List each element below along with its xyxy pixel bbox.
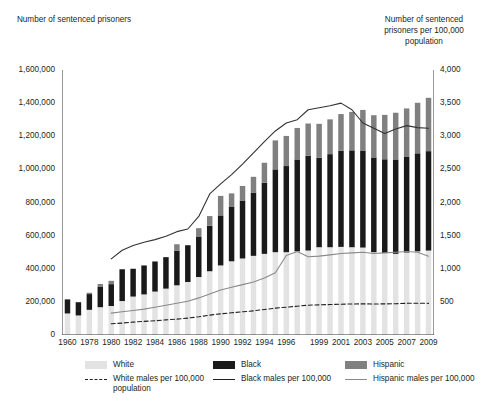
left-tick-label: 800,000 [0, 198, 55, 207]
bar-segment [415, 251, 420, 335]
bar-segment [174, 251, 179, 285]
legend-label-black-rate: Black males per 100,000 [241, 374, 331, 385]
bar-segment [426, 251, 431, 335]
legend-label-hispanic: Hispanic [373, 360, 404, 371]
bar-segment [316, 124, 321, 158]
bar-segment [163, 257, 168, 288]
bar-segment [327, 154, 332, 247]
bar-segment [152, 261, 157, 291]
legend-column-white: White White males per 100,000 population [85, 360, 223, 398]
bar-segment [163, 289, 168, 335]
bar-segment [284, 166, 289, 252]
left-tick-label: 400,000 [0, 264, 55, 273]
bar-segment [65, 313, 70, 335]
bar-segment [218, 196, 223, 216]
white-line-swatch-icon [85, 375, 107, 384]
x-tick-label: 1986 [168, 338, 186, 347]
bar-segment [207, 271, 212, 335]
bar-segment [207, 226, 212, 272]
legend-label-black: Black [241, 360, 261, 371]
bar-segment [349, 112, 354, 150]
x-tick-label: 1984 [146, 338, 164, 347]
legend-column-black: Black Black males per 100,000 [213, 360, 331, 387]
right-tick-label: 2,500 [440, 164, 461, 173]
bar-segment [338, 247, 343, 335]
x-tick-label: 1980 [102, 338, 120, 347]
bar-segment [196, 228, 201, 236]
left-tick-label: 0 [0, 330, 55, 339]
left-tick-label: 600,000 [0, 231, 55, 240]
bar-segment [415, 153, 420, 251]
x-tick-label: 2009 [419, 338, 437, 347]
bar-segment [382, 253, 387, 335]
bar-segment [251, 193, 256, 256]
bar-segment [76, 302, 81, 315]
bar-segment [87, 310, 92, 335]
left-tick-label: 1,400,000 [0, 98, 55, 107]
chart-figure: Number of sentenced prisoners Number of … [0, 0, 485, 415]
right-tick-label: 3,500 [440, 98, 461, 107]
bar-segment [284, 136, 289, 166]
bar-segment [130, 297, 135, 335]
right-tick-label: 1,000 [440, 264, 461, 273]
bar-segment [240, 201, 245, 259]
x-tick-label: 2005 [376, 338, 394, 347]
bar-segment [426, 151, 431, 250]
legend-item-white: White [85, 360, 223, 371]
bar-segment [273, 252, 278, 335]
legend-label-white: White [113, 360, 134, 371]
left-axis-title: Number of sentenced prisoners [8, 14, 140, 25]
x-tick-label: 1982 [124, 338, 142, 347]
bar-segment [327, 247, 332, 335]
bar-segment [262, 183, 267, 254]
bar-segment [185, 245, 190, 282]
bar-segment [338, 151, 343, 247]
bar-segment [305, 124, 310, 156]
bar-segment [295, 159, 300, 251]
legend-item-black-rate: Black males per 100,000 [213, 374, 331, 385]
left-tick-label: 1,000,000 [0, 164, 55, 173]
bar-segment [382, 159, 387, 253]
bar-segment [305, 156, 310, 251]
bar-segment [87, 293, 92, 294]
x-tick-label: 1992 [233, 338, 251, 347]
bar-segment [327, 119, 332, 154]
black-bar-swatch [213, 361, 235, 370]
bar-segment [371, 157, 376, 252]
x-tick-label: 1996 [277, 338, 295, 347]
series-line [111, 103, 428, 259]
bar-segment [316, 158, 321, 247]
right-axis-title: Number of sentenced prisoners per 100,00… [368, 14, 480, 47]
right-tick-label: 4,000 [440, 65, 461, 74]
bar-segment [273, 140, 278, 169]
bar-segment [109, 284, 114, 306]
bar-segment [174, 285, 179, 335]
white-bar-swatch [85, 361, 107, 370]
bar-segment [426, 98, 431, 151]
x-tick-label: 1978 [80, 338, 98, 347]
bar-segment [229, 261, 234, 335]
bar-segment [305, 251, 310, 335]
bar-segment [251, 256, 256, 335]
black-line-swatch-icon [213, 375, 235, 384]
bar-segment [393, 113, 398, 160]
hispanic-line-swatch-icon [345, 375, 367, 384]
x-tick-label: 1988 [190, 338, 208, 347]
bar-segment [196, 277, 201, 335]
bar-segment [393, 159, 398, 253]
bar-segment [240, 258, 245, 335]
legend-item-black: Black [213, 360, 331, 371]
bar-segment [360, 110, 365, 151]
bar-segment [360, 150, 365, 247]
x-tick-label: 1960 [58, 338, 76, 347]
right-tick-label: 2,000 [440, 198, 461, 207]
chart-legend: White White males per 100,000 population… [0, 360, 485, 415]
bar-segment [174, 244, 179, 251]
x-tick-label: 1994 [255, 338, 273, 347]
bar-segment [393, 254, 398, 335]
legend-item-hispanic-rate: Hispanic males per 100,000 [345, 374, 475, 385]
hispanic-bar-swatch [345, 361, 367, 370]
legend-item-white-rate: White males per 100,000 population [85, 374, 223, 395]
left-tick-label: 200,000 [0, 297, 55, 306]
bar-segment [76, 315, 81, 335]
